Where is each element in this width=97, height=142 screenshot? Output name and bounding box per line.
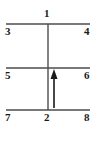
- node-label-8: 8: [84, 112, 90, 123]
- figure-canvas: 1 3 4 5 6 7 2 8: [0, 0, 97, 142]
- arrow-head-icon: [51, 69, 58, 79]
- node-label-1: 1: [44, 8, 50, 19]
- node-label-5: 5: [5, 70, 11, 81]
- node-label-3: 3: [5, 26, 11, 37]
- node-label-2: 2: [44, 112, 50, 123]
- node-label-6: 6: [84, 70, 90, 81]
- node-label-7: 7: [5, 112, 11, 123]
- node-label-4: 4: [84, 26, 90, 37]
